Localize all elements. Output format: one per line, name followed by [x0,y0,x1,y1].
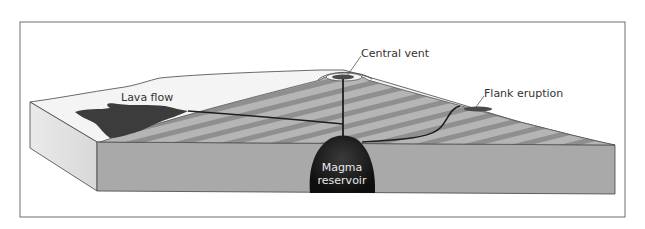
magma-label-line1: Magma [322,161,363,174]
flank-vent [464,107,492,112]
lava-flow-label: Lava flow [121,91,173,104]
flank-eruption-label: Flank eruption [484,87,563,100]
volcano-diagram: Lava flow Central vent Flank eruption Ma… [0,0,645,229]
central-vent-label: Central vent [361,47,430,60]
magma-label-line2: reservoir [318,174,367,187]
central-vent [332,74,354,79]
